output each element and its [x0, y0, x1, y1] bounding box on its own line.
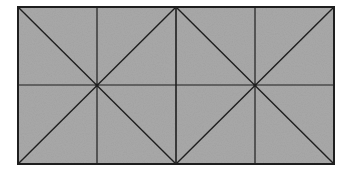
diagram-canvas [0, 0, 348, 175]
star-center-point [95, 83, 98, 86]
star-center-point [253, 83, 256, 86]
star-grid-diagram [0, 0, 348, 175]
